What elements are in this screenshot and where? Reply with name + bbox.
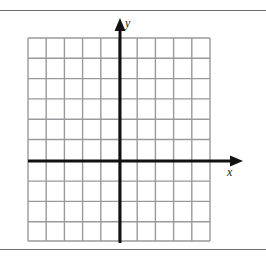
x-axis-label: x [227, 166, 232, 178]
y-axis-label: y [125, 17, 130, 29]
axes-group [28, 18, 243, 243]
coordinate-plane [0, 0, 266, 260]
coordinate-grid-figure: y x [0, 0, 266, 260]
y-axis-arrowhead-icon [115, 18, 126, 31]
